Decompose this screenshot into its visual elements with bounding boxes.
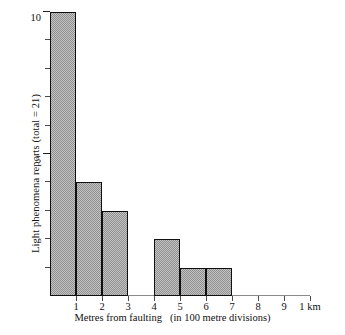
x-axis-title: Metres from faulting(in 100 metre divisi… (0, 312, 345, 323)
bar-2-3 (102, 211, 128, 296)
x-tick-label-10: 1 km (299, 301, 320, 312)
y-tick-10 (43, 11, 50, 12)
x-tick-label-4: 4 (151, 301, 156, 312)
x-tick-label-8: 8 (255, 301, 260, 312)
y-axis-title: Light phenomena reports (total = 21) (30, 59, 41, 289)
bar-1-2 (76, 182, 102, 296)
x-tick-label-7: 7 (229, 301, 234, 312)
bar-4-5 (154, 239, 180, 296)
x-axis-title-main: Metres from faulting (74, 312, 161, 323)
bar-0-1 (50, 12, 76, 296)
plot-area: 510 1234567891 km (50, 12, 310, 296)
x-tick-label-3: 3 (125, 301, 130, 312)
x-tick-label-9: 9 (281, 301, 286, 312)
x-tick-label-5: 5 (177, 301, 182, 312)
x-axis-title-note: (in 100 metre divisions) (170, 312, 271, 323)
bar-6-7 (206, 268, 232, 296)
x-tick-label-6: 6 (203, 301, 208, 312)
x-tick-label-1: 1 (73, 301, 78, 312)
bar-5-6 (180, 268, 206, 296)
x-tick-label-2: 2 (99, 301, 104, 312)
histogram-chart: Light phenomena reports (total = 21) 510… (0, 0, 345, 335)
y-tick-5 (43, 153, 50, 154)
